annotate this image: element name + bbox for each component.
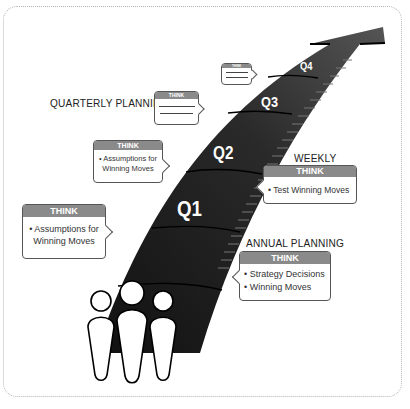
bubble-line: • Strategy Decisions [244, 268, 330, 281]
bubble-header: THINK [94, 141, 162, 150]
think-bubble-annual: THINK • Strategy Decisions • Winning Mov… [239, 251, 331, 301]
bubble-line: Winning Moves [94, 164, 162, 174]
bubble-line: • Test Winning Moves [268, 184, 356, 196]
quarter-label-q3: Q3 [261, 93, 278, 110]
bubble-header: THINK [23, 205, 105, 217]
bubble-line: Winning Moves [23, 235, 105, 247]
bubble-header: THINK [155, 92, 198, 99]
think-bubble-assumptions-mid: THINK • Assumptions for Winning Moves [93, 140, 163, 183]
bubble-header: THINK [240, 252, 330, 264]
placeholder-line [159, 106, 195, 107]
bubble-line: • Assumptions for [23, 223, 105, 235]
bubble-line: • Winning Moves [244, 281, 330, 294]
placeholder-line [226, 72, 248, 73]
quarter-label-q4: Q4 [300, 60, 312, 72]
think-bubble-top-small: THINK [221, 63, 252, 85]
quarter-label-q1: Q1 [177, 196, 202, 222]
quarterly-planning-label: QUARTERLY PLANNING [50, 97, 169, 109]
think-bubble-weekly: THINK • Test Winning Moves [263, 165, 357, 204]
people-group-icon [88, 281, 176, 383]
bubble-header: THINK [264, 166, 356, 177]
quarter-label-q2: Q2 [213, 143, 233, 164]
bubble-header: THINK [222, 64, 251, 68]
weekly-label: WEEKLY [294, 152, 337, 164]
think-bubble-assumptions-large: THINK • Assumptions for Winning Moves [22, 204, 106, 259]
bubble-line: • Assumptions for [94, 154, 162, 164]
placeholder-line [226, 77, 248, 78]
placeholder-line [160, 113, 193, 114]
think-bubble-quarterly: THINK [154, 91, 199, 125]
annual-planning-label: ANNUAL PLANNING [246, 237, 344, 249]
